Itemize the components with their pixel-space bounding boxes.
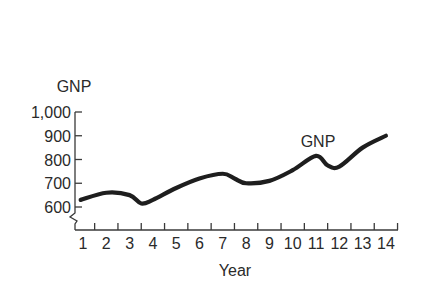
x-tick-label: 1 xyxy=(79,235,88,252)
y-tick-label: 800 xyxy=(44,152,71,169)
y-tick-label: 1,000 xyxy=(31,104,71,121)
y-axis-line xyxy=(70,112,77,230)
x-tick-label: 12 xyxy=(330,235,348,252)
gnp-series-line xyxy=(81,136,386,204)
x-tick-label: 2 xyxy=(102,235,111,252)
x-tick-label: 11 xyxy=(308,235,325,252)
x-ticks: 1234567891011121314 xyxy=(79,223,398,252)
y-axis-title: GNP xyxy=(57,78,92,95)
y-tick-label: 900 xyxy=(44,128,71,145)
x-axis: 1234567891011121314 xyxy=(75,223,398,252)
series-annotation-label: GNP xyxy=(301,133,336,150)
x-tick-label: 5 xyxy=(172,235,181,252)
y-tick-label: 600 xyxy=(44,199,71,216)
gnp-line-chart: GNP 6007008009001,000 123456789101112131… xyxy=(0,0,421,292)
x-tick-label: 10 xyxy=(284,235,302,252)
x-tick-label: 8 xyxy=(242,235,251,252)
x-tick-label: 14 xyxy=(377,235,395,252)
x-tick-label: 7 xyxy=(218,235,227,252)
y-tick-label: 700 xyxy=(44,175,71,192)
x-tick-label: 3 xyxy=(125,235,134,252)
y-ticks: 6007008009001,000 xyxy=(31,104,82,216)
x-axis-title: Year xyxy=(219,262,252,279)
x-tick-label: 6 xyxy=(195,235,204,252)
y-axis: 6007008009001,000 xyxy=(31,104,82,230)
x-tick-label: 13 xyxy=(354,235,372,252)
x-tick-label: 4 xyxy=(148,235,157,252)
x-tick-label: 9 xyxy=(265,235,274,252)
